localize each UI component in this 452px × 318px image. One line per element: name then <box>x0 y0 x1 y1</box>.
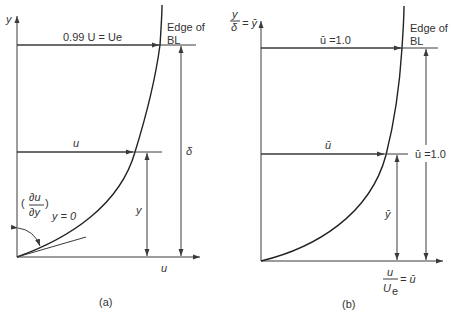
svg-text:u: u <box>387 266 393 278</box>
edge-velocity-label: ū =1.0 <box>320 34 351 46</box>
edge-of-bl-label: Edge of <box>410 22 449 34</box>
height-label: ȳ <box>384 208 392 220</box>
svg-text:(: ( <box>21 197 25 209</box>
edge-of-bl-label-2: BL <box>410 35 423 47</box>
wall-gradient-label: ( ∂u ∂y ) y = 0 <box>21 191 77 222</box>
x-axis-label: u U e = ū <box>383 266 416 297</box>
derivative-subscript: y = 0 <box>51 210 77 222</box>
wall-tangent-line <box>17 237 86 257</box>
local-velocity-label: u <box>73 137 79 149</box>
slope-angle-arc <box>18 228 40 246</box>
edge-of-bl-label-2: BL <box>167 34 180 46</box>
y-axis-label: y δ = ȳ <box>230 8 258 33</box>
panel-b-caption: (b) <box>342 298 355 310</box>
thickness-label: δ <box>186 145 193 157</box>
right-velocity-label: ū =1.0 <box>415 148 446 160</box>
svg-text:= ȳ: = ȳ <box>242 17 258 29</box>
derivative-denominator: ∂y <box>29 206 41 218</box>
panel-a: y u 0.99 U = Ue Edge of BL u y δ ( ∂u ∂y… <box>5 5 206 308</box>
svg-text:e: e <box>392 285 398 297</box>
svg-text:U: U <box>383 282 391 294</box>
panel-a-caption: (a) <box>99 296 112 308</box>
boundary-layer-diagram: y u 0.99 U = Ue Edge of BL u y δ ( ∂u ∂y… <box>0 0 452 318</box>
local-velocity-label: ū <box>325 139 331 151</box>
x-axis-label: u <box>161 262 167 274</box>
panel-b: y δ = ȳ ū =1.0 Edge of BL ū ū =1.0 ȳ u U… <box>230 6 449 310</box>
edge-velocity-label: 0.99 U = Ue <box>63 31 122 43</box>
svg-text:): ) <box>45 197 49 209</box>
svg-text:= ū: = ū <box>400 273 416 285</box>
y-axis-label: y <box>5 13 13 25</box>
svg-text:y: y <box>231 8 239 20</box>
edge-of-bl-label: Edge of <box>167 21 206 33</box>
derivative-numerator: ∂u <box>29 191 41 203</box>
height-label: y <box>135 204 143 216</box>
svg-text:δ: δ <box>231 21 238 33</box>
